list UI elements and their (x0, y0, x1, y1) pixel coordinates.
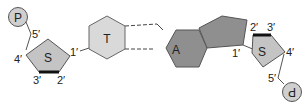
right-c2-label: 2′ (250, 21, 258, 33)
hydrogen-bonds (125, 24, 163, 49)
left-c4-label: 4′ (14, 53, 22, 65)
svg-text:P: P (14, 11, 22, 25)
left-5prime-bond (26, 22, 31, 50)
right-c5-label: 5′ (268, 72, 276, 84)
base-pair-diagram: P S 5′ 4′ 3′ 2′ 1′ T A 1′ S 2′ 3′ 4′ (0, 0, 306, 111)
left-glycosidic-bond (80, 48, 89, 51)
svg-text:P: P (288, 85, 296, 99)
svg-text:T: T (103, 32, 111, 46)
left-phosphate: P (9, 8, 28, 27)
svg-text:S: S (44, 51, 52, 65)
left-sugar: S (26, 39, 70, 72)
left-c2-label: 2′ (57, 74, 65, 86)
left-c1-label: 1′ (70, 46, 78, 58)
right-c4-label: 4′ (286, 46, 294, 58)
right-c3-label: 3′ (267, 21, 275, 33)
adenine-base: A (166, 16, 247, 67)
thymine-base: T (89, 16, 125, 59)
right-phosphate: P (283, 83, 302, 102)
right-sugar: S (249, 35, 285, 67)
right-5prime-bond (278, 54, 284, 84)
svg-text:A: A (172, 43, 180, 57)
left-c3-label: 3′ (33, 74, 41, 86)
svg-text:S: S (258, 45, 266, 59)
left-c5-label: 5′ (32, 28, 40, 40)
right-c1-label: 1′ (232, 47, 240, 59)
